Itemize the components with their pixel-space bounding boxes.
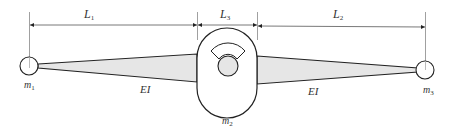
mass-m1 xyxy=(20,57,38,75)
label-L1: L1 xyxy=(83,7,95,22)
dimension-L2 xyxy=(258,26,425,27)
right-beam xyxy=(257,56,418,84)
label-EI-left: EI xyxy=(139,83,152,95)
label-m3: m3 xyxy=(423,84,434,97)
left-beam xyxy=(38,54,197,82)
hub-inner-circle xyxy=(218,56,238,76)
mass-m3 xyxy=(416,61,434,79)
label-L3: L3 xyxy=(219,7,231,22)
label-m1: m1 xyxy=(24,79,35,92)
label-L2: L2 xyxy=(332,7,344,22)
flexible-beam-diagram: L1 L3 L2 m1 m2 m3 EI EI xyxy=(0,0,454,130)
dimension-lines xyxy=(30,25,425,27)
label-EI-right: EI xyxy=(307,85,320,97)
